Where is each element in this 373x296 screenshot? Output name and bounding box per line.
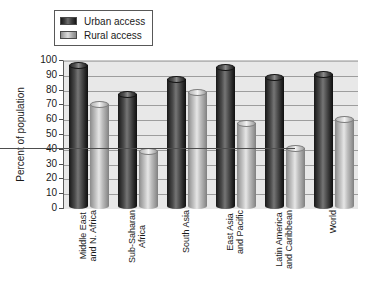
y-axis-tick-label: 40 [31, 144, 57, 154]
plot-area [63, 60, 358, 209]
bar-top-cap [265, 74, 284, 81]
y-axis-tick-label: 10 [31, 188, 57, 198]
bar-urban-access [69, 65, 88, 209]
legend-label-urban-access: Urban access [84, 16, 145, 27]
bar-top-cap [314, 71, 333, 78]
bar-top-cap [139, 148, 158, 155]
category-label-line2: and Caribbean [284, 210, 294, 269]
y-axis-tick-mark [59, 164, 63, 165]
x-axis-category-label: South Asia [163, 210, 209, 294]
bar-body [139, 151, 158, 209]
bar-body [167, 79, 186, 209]
bar-urban-access [265, 77, 284, 209]
bar-group [309, 61, 358, 209]
y-axis-tick-mark [59, 60, 63, 61]
bar-groups [64, 61, 358, 209]
category-label-line1: Latin America [274, 212, 284, 267]
bar-urban-access [314, 74, 333, 209]
category-label-line1: Sub-Saharan [127, 210, 137, 263]
y-axis-tick-label: 70 [31, 99, 57, 109]
y-axis-tick-mark [59, 178, 63, 179]
bar-rural-access [139, 151, 158, 209]
category-label-line1: South Asia [181, 210, 191, 253]
bar-body [216, 67, 235, 209]
bar-body [314, 74, 333, 209]
bar-top-cap [335, 116, 354, 123]
bar-rural-access [237, 123, 256, 209]
legend-label-rural-access: Rural access [84, 30, 142, 41]
y-axis-tick-labels: 1009080706050403020100 [31, 60, 57, 209]
bar-body [118, 94, 137, 209]
bar-top-cap [167, 76, 186, 83]
bar-body [90, 104, 109, 209]
y-axis-tick-label: 20 [31, 173, 57, 183]
category-label-line2: and N. Africa [88, 210, 98, 262]
y-axis-tick-label: 100 [31, 55, 57, 65]
y-axis-tick-mark [59, 119, 63, 120]
legend-item-rural-access: Rural access [60, 28, 145, 42]
y-axis-tick-label: 50 [31, 129, 57, 139]
x-axis-category-label: East Asiaand Pacific [212, 210, 258, 294]
x-axis-category-label: Middle Eastand N. Africa [65, 210, 111, 294]
bar-group [64, 61, 113, 209]
rural-access-swatch-icon [60, 31, 77, 39]
y-axis-tick-mark [59, 90, 63, 91]
bar-rural-access [90, 104, 109, 209]
y-axis-tick-mark [59, 134, 63, 135]
chart-legend: Urban access Rural access [54, 10, 153, 46]
bar-urban-access [118, 94, 137, 209]
bar-body [265, 77, 284, 209]
bar-top-cap [69, 62, 88, 69]
x-axis-category-label: World [310, 210, 356, 294]
y-axis-tick-label: 80 [31, 85, 57, 95]
category-label-line1: East Asia [225, 213, 235, 251]
bar-top-cap [237, 120, 256, 127]
bar-top-cap [90, 101, 109, 108]
y-axis-tick-mark [59, 208, 63, 209]
y-axis-tick-mark [59, 75, 63, 76]
bar-top-cap [216, 64, 235, 71]
bar-urban-access [167, 79, 186, 209]
bar-group [113, 61, 162, 209]
category-label-line2: Africa [137, 210, 147, 263]
category-label-line1: World [328, 210, 338, 233]
bar-top-cap [188, 89, 207, 96]
bar-body [335, 119, 354, 209]
bar-urban-access [216, 67, 235, 209]
y-axis-tick-label: 30 [31, 159, 57, 169]
bar-group [211, 61, 260, 209]
y-axis-tick-mark [59, 193, 63, 194]
y-axis-tick-label: 60 [31, 114, 57, 124]
bar-rural-access [286, 148, 305, 209]
x-axis-category-labels: Middle Eastand N. AfricaSub-SaharanAfric… [63, 210, 357, 296]
bar-top-cap [118, 91, 137, 98]
x-axis-category-label: Sub-SaharanAfrica [114, 210, 160, 294]
y-axis-tick-label: 0 [31, 203, 57, 213]
bar-body [188, 92, 207, 209]
y-axis-title: Percent of population [13, 60, 27, 208]
bar-rural-access [188, 92, 207, 209]
bar-group [162, 61, 211, 209]
bar-rural-access [335, 119, 354, 209]
urban-access-swatch-icon [60, 17, 77, 25]
bar-body [69, 65, 88, 209]
category-label-line2: and Pacific [235, 210, 245, 254]
bar-group [260, 61, 309, 209]
bar-chart-figure: Urban access Rural access Percent of pop… [0, 0, 373, 296]
x-axis-line [0, 148, 295, 149]
y-axis-tick-mark [59, 149, 63, 150]
bar-body [286, 148, 305, 209]
legend-item-urban-access: Urban access [60, 14, 145, 28]
category-label-line1: Middle East [78, 212, 88, 259]
bar-body [237, 123, 256, 209]
x-axis-category-label: Latin Americaand Caribbean [261, 210, 307, 294]
y-axis-tick-label: 90 [31, 70, 57, 80]
y-axis-tick-mark [59, 104, 63, 105]
y-axis-title-text: Percent of population [15, 87, 26, 182]
